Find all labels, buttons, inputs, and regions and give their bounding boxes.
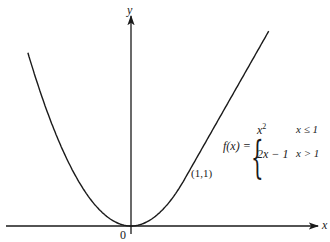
origin-label: 0 [120,229,126,241]
case1-condition: x ≤ 1 [296,124,318,135]
function-curve [28,31,269,226]
case1-exponent: 2 [262,122,266,131]
function-lhs: f(x) = [223,140,251,152]
y-axis-label: y [127,4,132,16]
function-graph [0,0,330,242]
case1-expression: x2 [257,123,266,136]
case2-expression: 2x − 1 [257,148,288,160]
case2-condition: x > 1 [296,148,319,159]
point-annotation: (1,1) [191,168,212,179]
x-axis-label: x [322,219,327,231]
